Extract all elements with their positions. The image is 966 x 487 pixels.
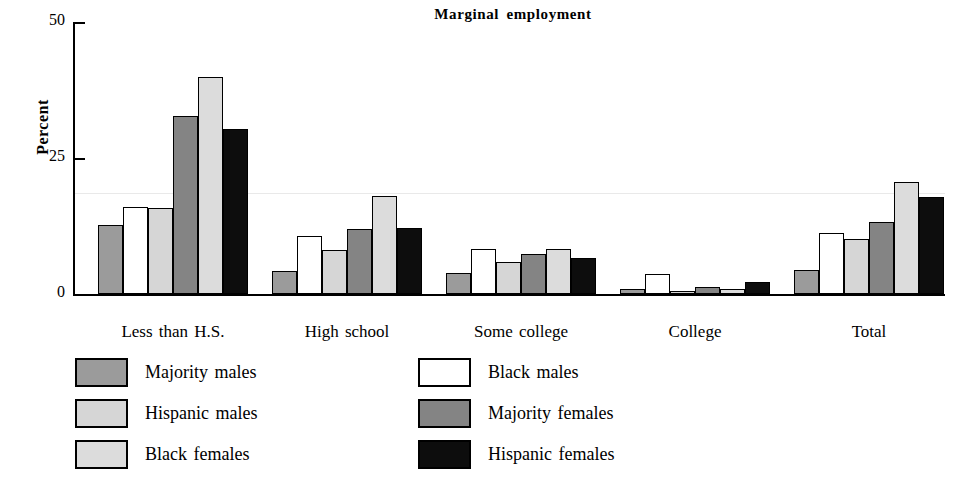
y-tick-0: [73, 294, 85, 296]
y-tick-50: [73, 22, 85, 24]
legend-column-males: Majority malesHispanic malesBlack female…: [75, 352, 257, 475]
bar: [372, 196, 397, 294]
bar: [521, 254, 546, 294]
bar: [198, 77, 223, 294]
legend-item: Majority males: [75, 352, 257, 393]
bar: [670, 291, 695, 294]
x-axis-category-label: Total: [756, 322, 966, 342]
bar: [322, 250, 347, 294]
legend-item: Hispanic females: [418, 434, 614, 475]
bar: [720, 289, 745, 294]
legend-swatch: [418, 358, 471, 387]
bar: [446, 273, 471, 294]
bar: [223, 129, 248, 294]
bar: [173, 116, 198, 294]
bar: [844, 239, 869, 294]
y-tick-label-0: 0: [25, 283, 65, 301]
legend-label: Majority males: [145, 362, 256, 383]
bar: [645, 274, 670, 294]
legend-column-females: Black malesMajority femalesHispanic fema…: [418, 352, 614, 475]
chart-figure: Marginal employment 50 25 0 Percent Less…: [0, 0, 966, 487]
bar-group: [272, 22, 422, 294]
legend-item: Hispanic males: [75, 393, 257, 434]
bar: [919, 197, 944, 294]
bar: [123, 207, 148, 294]
bar-group: [794, 22, 944, 294]
bar: [794, 270, 819, 294]
legend-swatch: [75, 399, 128, 428]
legend-label: Black females: [145, 444, 249, 465]
bar-group: [446, 22, 596, 294]
legend-label: Hispanic females: [488, 444, 614, 465]
bar: [471, 249, 496, 294]
chart-legend: Majority malesHispanic malesBlack female…: [0, 352, 966, 477]
bar: [620, 289, 645, 294]
legend-swatch: [418, 440, 471, 469]
legend-label: Black males: [488, 362, 578, 383]
chart-title: Marginal employment: [30, 6, 966, 23]
legend-item: Black females: [75, 434, 257, 475]
legend-swatch: [75, 440, 128, 469]
bar: [745, 282, 770, 295]
x-axis-line: [73, 294, 945, 296]
bar-group: [98, 22, 248, 294]
legend-swatch: [418, 399, 471, 428]
bar: [272, 271, 297, 294]
legend-label: Majority females: [488, 403, 613, 424]
legend-item: Majority females: [418, 393, 614, 434]
bar: [695, 287, 720, 294]
legend-item: Black males: [418, 352, 614, 393]
y-tick-label-50: 50: [25, 11, 65, 29]
plot-area: 50 25 0 Percent Less than H.S.High schoo…: [73, 22, 945, 294]
bar-group: [620, 22, 770, 294]
legend-label: Hispanic males: [145, 403, 257, 424]
bar: [869, 222, 894, 294]
y-axis-title: Percent: [34, 99, 52, 155]
bar: [819, 233, 844, 294]
bar: [297, 236, 322, 294]
bar: [571, 258, 596, 294]
bar: [894, 182, 919, 294]
bar: [397, 228, 422, 294]
bar: [98, 225, 123, 294]
legend-swatch: [75, 358, 128, 387]
bar: [148, 208, 173, 294]
bar: [347, 229, 372, 294]
bar: [546, 249, 571, 294]
bar: [496, 262, 521, 294]
y-tick-25: [73, 158, 85, 160]
